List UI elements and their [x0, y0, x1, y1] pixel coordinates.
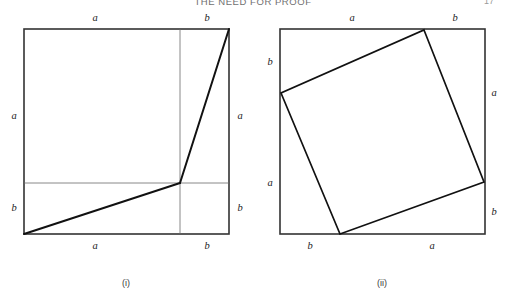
panel-ii-outer-square: [280, 29, 485, 234]
panel-i-lower-diagonal: [24, 183, 180, 234]
figure-drawing-canvas: [0, 0, 506, 303]
panel-i-drawing: [24, 29, 229, 234]
panel-ii-drawing: [280, 29, 485, 234]
panel-i-outer-square: [24, 29, 229, 234]
panel-i-upper-diagonal: [180, 29, 229, 183]
panel-ii-inscribed-square: [281, 30, 484, 234]
geometry-figure: a b a b a b a b a b b a a b b a (i) (ii): [0, 0, 506, 303]
